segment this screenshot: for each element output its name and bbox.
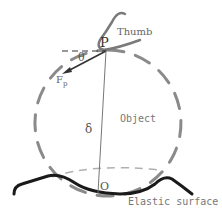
vertical-line-po — [98, 51, 106, 193]
label-force: Fp — [56, 74, 68, 88]
label-elastic-surface: Elastic surface — [128, 196, 218, 207]
label-delta: δ — [85, 122, 92, 136]
contact-chord — [52, 168, 160, 177]
label-object: Object — [120, 113, 156, 124]
label-point-o: O — [100, 180, 109, 193]
label-point-p: P — [100, 35, 109, 50]
diagram: P Thumb θ Fp δ Object O Elastic surface — [0, 0, 222, 214]
label-thumb: Thumb — [117, 26, 152, 37]
label-angle-theta: θ — [78, 51, 85, 64]
